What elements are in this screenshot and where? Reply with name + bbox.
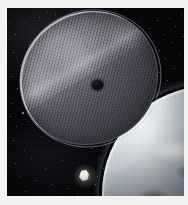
star xyxy=(15,163,16,164)
star xyxy=(51,184,52,185)
star xyxy=(19,176,20,177)
star xyxy=(181,14,182,15)
star xyxy=(15,34,16,35)
star xyxy=(99,158,100,159)
star xyxy=(45,168,46,169)
star xyxy=(13,140,14,141)
star xyxy=(183,36,184,37)
star xyxy=(31,158,32,159)
star xyxy=(159,50,160,51)
star xyxy=(149,28,150,29)
star xyxy=(22,112,24,114)
star xyxy=(175,26,176,27)
image-canvas: Large mesh reflector disc in orbit above… xyxy=(0,0,188,205)
star xyxy=(39,17,40,18)
star xyxy=(47,12,48,13)
star xyxy=(16,126,17,127)
star xyxy=(25,191,26,192)
star xyxy=(55,14,56,15)
star xyxy=(164,34,165,35)
star xyxy=(174,68,175,69)
star xyxy=(28,121,29,122)
star xyxy=(77,194,78,195)
space-illustration xyxy=(7,8,184,196)
star xyxy=(169,18,170,19)
star xyxy=(139,22,140,23)
star xyxy=(12,103,13,104)
star xyxy=(67,188,68,189)
star xyxy=(24,150,25,151)
star xyxy=(171,42,172,43)
star xyxy=(35,180,36,181)
star xyxy=(157,20,158,21)
star xyxy=(165,58,166,59)
star xyxy=(95,184,96,185)
star xyxy=(25,22,26,23)
disc-hub-spot xyxy=(92,80,103,90)
star xyxy=(10,116,11,117)
star xyxy=(9,22,10,23)
star xyxy=(179,54,180,55)
